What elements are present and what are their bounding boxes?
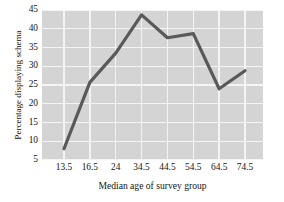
y-tick-label: 45 bbox=[14, 5, 38, 14]
x-tick-label: 34.5 bbox=[133, 163, 149, 172]
x-axis-title: Median age of survey group bbox=[42, 180, 263, 191]
x-axis-tick-labels: 13.516.52434.544.554.564.574.5 bbox=[42, 163, 263, 177]
x-tick-label: 44.5 bbox=[159, 163, 175, 172]
x-tick-label: 54.5 bbox=[185, 163, 201, 172]
x-tick-label: 16.5 bbox=[82, 163, 98, 172]
y-tick-label: 30 bbox=[14, 62, 38, 71]
y-tick-label: 20 bbox=[14, 99, 38, 108]
y-tick-label: 5 bbox=[14, 155, 38, 164]
y-tick-label: 15 bbox=[14, 118, 38, 127]
data-series-line bbox=[42, 10, 263, 160]
x-tick-label: 13.5 bbox=[56, 163, 72, 172]
x-tick-label: 64.5 bbox=[211, 163, 227, 172]
x-tick-label: 74.5 bbox=[237, 163, 253, 172]
plot-area bbox=[42, 10, 263, 160]
y-tick-label: 25 bbox=[14, 80, 38, 89]
y-axis-tick-labels: 51015202530354045 bbox=[14, 10, 38, 160]
line-chart-figure: Percentage displaying schema 51015202530… bbox=[0, 0, 284, 202]
y-tick-label: 10 bbox=[14, 137, 38, 146]
y-tick-label: 35 bbox=[14, 43, 38, 52]
y-tick-label: 40 bbox=[14, 24, 38, 33]
x-tick-label: 24 bbox=[111, 163, 120, 172]
